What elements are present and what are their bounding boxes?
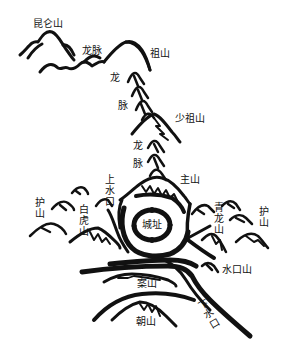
feng-shui-diagram: 昆仑山 龙脉 祖山 龙 脉 少祖山 龙 脉 主山 上水口 护山 白虎山 城址 青…	[0, 0, 287, 349]
label-left-hushan: 护山	[34, 197, 45, 219]
label-dragon-vein-top: 龙脉	[82, 45, 102, 56]
label-vein-2: 脉	[133, 158, 143, 169]
label-city-site: 城址	[142, 219, 162, 230]
shaozushan-mountain-icon	[132, 114, 180, 142]
label-right-hushan: 护山	[258, 206, 269, 228]
label-anshan: 案山	[137, 278, 157, 289]
label-zhushan: 主山	[180, 174, 200, 185]
label-kunlun-mountain: 昆仑山	[33, 18, 63, 29]
label-vein-1: 脉	[118, 100, 128, 111]
label-shaozushan: 少祖山	[175, 113, 205, 124]
label-upper-water-inlet: 上水口	[104, 174, 115, 207]
kunlun-mountain-icon	[20, 32, 74, 60]
label-dragon-2: 龙	[133, 140, 143, 151]
label-dragon-1: 龙	[110, 72, 120, 83]
label-chaoshan: 朝山	[136, 316, 156, 327]
label-qinglongshan: 青龙山	[213, 202, 224, 235]
label-baihushan: 白虎山	[78, 204, 89, 237]
dragon-vein-peaks-upper-icon	[128, 73, 154, 120]
landscape-drawing	[0, 0, 287, 349]
zushan-mountain-icon	[126, 41, 150, 70]
label-zushan: 祖山	[150, 48, 170, 59]
label-shuikoushan: 水口山	[222, 264, 252, 275]
dragon-vein-peaks-lower-icon	[148, 141, 166, 180]
shuikoushan-hill-icon	[202, 263, 218, 272]
